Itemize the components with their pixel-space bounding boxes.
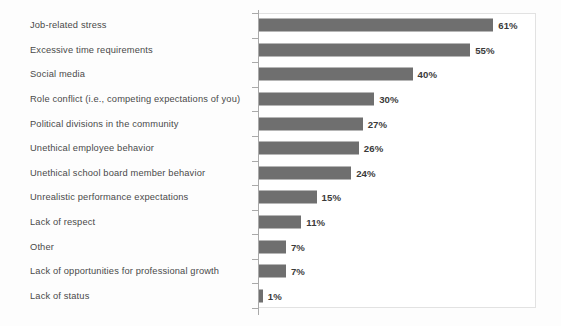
bar [259, 117, 363, 130]
bar-value-label: 24% [356, 167, 376, 178]
axis-tick [252, 136, 258, 137]
bar-value-label: 7% [291, 266, 305, 277]
bar [259, 265, 286, 278]
bar [259, 215, 301, 228]
bar-group: 7% [259, 265, 305, 278]
bar-row: Lack of opportunities for professional g… [0, 259, 561, 284]
category-label: Job-related stress [30, 20, 254, 31]
bar-value-label: 55% [475, 44, 495, 55]
category-label: Lack of status [30, 290, 254, 301]
bar [259, 19, 493, 32]
bar [259, 142, 359, 155]
bar-group: 15% [259, 191, 341, 204]
bar-row: Political divisions in the community27% [0, 111, 561, 136]
bar-group: 1% [259, 289, 282, 302]
axis-tick [252, 161, 258, 162]
bar-value-label: 40% [418, 69, 438, 80]
category-label: Social media [30, 69, 254, 80]
category-label: Unrealistic performance expectations [30, 192, 254, 203]
bar-row: Lack of respect11% [0, 210, 561, 235]
bar-row: Excessive time requirements55% [0, 38, 561, 63]
bar-row: Role conflict (i.e., competing expectati… [0, 87, 561, 112]
category-label: Political divisions in the community [30, 118, 254, 129]
bar-value-label: 27% [368, 118, 388, 129]
bar [259, 191, 317, 204]
bar-value-label: 7% [291, 241, 305, 252]
axis-tick [252, 283, 258, 284]
bar [259, 43, 470, 56]
bar-row: Social media40% [0, 62, 561, 87]
bar [259, 240, 286, 253]
bar [259, 68, 413, 81]
bar-group: 24% [259, 166, 376, 179]
bar-value-label: 1% [268, 290, 282, 301]
axis-tick [252, 13, 258, 14]
axis-tick [252, 259, 258, 260]
axis-tick [252, 210, 258, 211]
bar-row: Lack of status1% [0, 283, 561, 308]
axis-tick [252, 111, 258, 112]
bar-chart: Job-related stress61%Excessive time requ… [0, 0, 561, 326]
bar-value-label: 26% [364, 143, 384, 154]
category-label: Lack of respect [30, 216, 254, 227]
category-label: Unethical employee behavior [30, 143, 254, 154]
bar [259, 289, 263, 302]
bar-group: 11% [259, 215, 325, 228]
bar [259, 93, 374, 106]
axis-tick [252, 185, 258, 186]
bar-value-label: 30% [379, 94, 399, 105]
axis-tick [252, 87, 258, 88]
category-label: Lack of opportunities for professional g… [30, 266, 254, 277]
bar-group: 55% [259, 43, 495, 56]
category-label: Excessive time requirements [30, 44, 254, 55]
bar-value-label: 15% [322, 192, 342, 203]
bar [259, 166, 351, 179]
bar-row: Job-related stress61% [0, 13, 561, 38]
bar-value-label: 61% [498, 20, 518, 31]
bar-group: 26% [259, 142, 383, 155]
bar-group: 61% [259, 19, 518, 32]
bar-row: Other7% [0, 234, 561, 259]
axis-tick [252, 62, 258, 63]
bar-group: 27% [259, 117, 387, 130]
axis-tick [252, 234, 258, 235]
axis-tick [252, 38, 258, 39]
bar-row: Unethical school board member behavior24… [0, 161, 561, 186]
bar-row: Unethical employee behavior26% [0, 136, 561, 161]
category-label: Role conflict (i.e., competing expectati… [30, 94, 254, 105]
category-label: Other [30, 241, 254, 252]
bar-row: Unrealistic performance expectations15% [0, 185, 561, 210]
axis-tick [252, 308, 258, 309]
bar-group: 40% [259, 68, 437, 81]
category-label: Unethical school board member behavior [30, 167, 254, 178]
bar-value-label: 11% [306, 216, 325, 227]
bar-group: 30% [259, 93, 399, 106]
bar-group: 7% [259, 240, 305, 253]
